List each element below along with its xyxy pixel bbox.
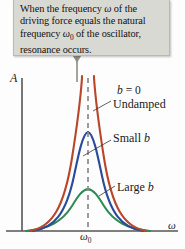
annotation-large-b: Large b [117,180,154,195]
caption-line1-b: of [111,3,122,14]
curve-undamped [30,76,82,231]
caption-callout: When the frequency ω of the driving forc… [13,0,170,56]
caption-line1-a: When the frequency [20,3,104,14]
x-tick-label-omega0: ω0 [80,230,91,245]
y-axis-label: A [10,71,17,86]
omega0-tick-subscript: 0 [88,236,92,245]
caption-line3-b: of the [74,28,100,39]
omega0-tick-base: ω [80,230,88,242]
caption-text: When the frequency ω of the driving forc… [20,3,164,57]
omega0-symbol: ω [63,28,70,39]
resonance-figure: When the frequency ω of the driving forc… [0,0,185,249]
annotation-small-b: Small b [113,131,150,146]
annotation-b-equals-zero: b = 0 [117,84,141,96]
annotation-undamped: Undamped [113,97,166,112]
x-axis-label: ω [168,219,176,231]
caption-pointer [73,56,81,82]
